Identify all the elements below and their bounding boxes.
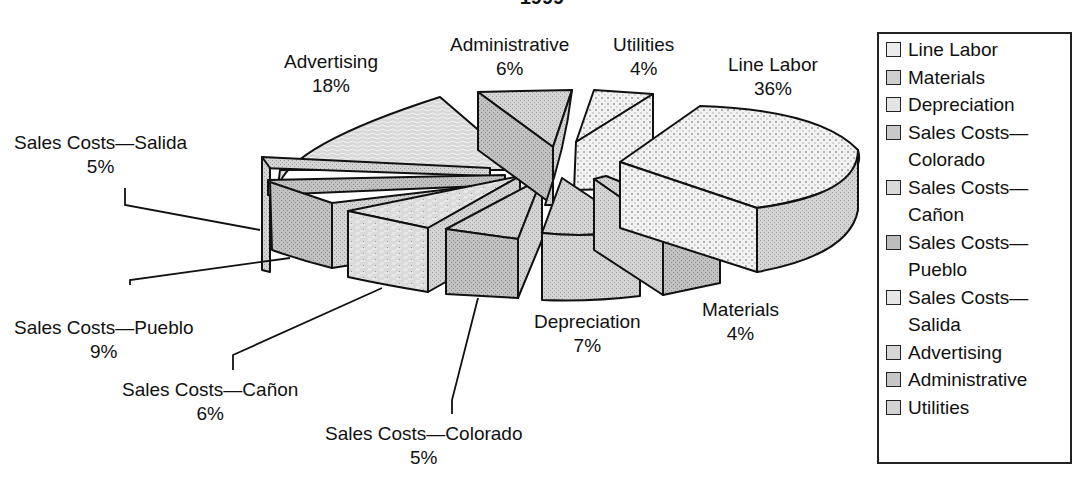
label-line-labor: Line Labor36% — [728, 53, 818, 101]
legend-swatch — [886, 372, 901, 387]
legend-item-utilities: Utilities — [879, 394, 1070, 422]
legend-item-materials: Materials — [879, 64, 1070, 92]
legend-item-salida: Sales Costs— Salida — [879, 284, 1070, 339]
label-utilities: Utilities4% — [613, 33, 674, 81]
chart-legend: Line Labor Materials Depreciation Sales … — [877, 32, 1072, 464]
legend-item-colorado: Sales Costs— Colorado — [879, 119, 1070, 174]
legend-item-canon: Sales Costs— Cañon — [879, 174, 1070, 229]
legend-item-line-labor: Line Labor — [879, 36, 1070, 64]
legend-swatch — [886, 345, 901, 360]
legend-swatch — [886, 42, 901, 57]
legend-swatch — [886, 400, 901, 415]
label-materials: Materials4% — [702, 298, 779, 346]
label-salida: Sales Costs—Salida5% — [14, 131, 187, 179]
legend-swatch — [886, 70, 901, 85]
legend-swatch — [886, 235, 901, 250]
legend-swatch — [886, 125, 901, 140]
label-colorado: Sales Costs—Colorado5% — [325, 422, 522, 470]
label-canon: Sales Costs—Cañon6% — [122, 378, 298, 426]
legend-swatch — [886, 290, 901, 305]
label-administrative: Administrative6% — [450, 33, 569, 81]
legend-swatch — [886, 97, 901, 112]
legend-swatch — [886, 180, 901, 195]
label-depreciation: Depreciation7% — [534, 310, 641, 358]
label-advertising: Advertising18% — [284, 50, 378, 98]
legend-item-advertising: Advertising — [879, 339, 1070, 367]
label-pueblo: Sales Costs—Pueblo9% — [14, 316, 194, 364]
legend-item-pueblo: Sales Costs— Pueblo — [879, 229, 1070, 284]
legend-item-administrative: Administrative — [879, 366, 1070, 394]
legend-item-depreciation: Depreciation — [879, 91, 1070, 119]
